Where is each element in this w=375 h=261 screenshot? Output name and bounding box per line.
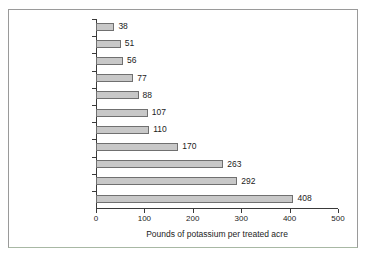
bar: [96, 160, 223, 168]
bar: [96, 91, 139, 99]
bar-value-label: 77: [137, 71, 146, 86]
y-axis-tick: [92, 105, 96, 106]
x-axis-tick-label: 0: [76, 214, 116, 224]
x-axis-tick: [241, 209, 242, 213]
bar: [96, 23, 114, 31]
x-axis-line: [96, 208, 338, 209]
y-axis-tick: [92, 19, 96, 20]
y-axis-tick: [92, 71, 96, 72]
chart-figure: Wheat38Cotton51Corn56Lettuce (head)77Soy…: [0, 0, 375, 261]
x-axis-tick-label: 500: [318, 214, 358, 224]
y-axis-tick: [92, 157, 96, 158]
y-axis-tick: [92, 53, 96, 54]
x-axis-title: Pounds of potassium per treated acre: [96, 229, 338, 239]
bar-value-label: 88: [143, 88, 152, 103]
y-axis-tick: [92, 191, 96, 192]
y-axis-tick: [92, 122, 96, 123]
x-axis-tick: [96, 209, 97, 213]
x-axis-tick: [290, 209, 291, 213]
bar: [96, 109, 148, 117]
bar: [96, 40, 121, 48]
x-axis-tick-label: 400: [270, 214, 310, 224]
bar-value-label: 110: [153, 122, 167, 137]
bar-value-label: 263: [227, 157, 241, 172]
y-axis-tick: [92, 88, 96, 89]
bar-value-label: 38: [118, 19, 127, 34]
x-axis-tick: [338, 209, 339, 213]
bar-value-label: 292: [241, 174, 255, 189]
bar: [96, 177, 237, 185]
bar: [96, 74, 133, 82]
x-axis-tick: [193, 209, 194, 213]
y-axis-tick: [92, 36, 96, 37]
bar: [96, 57, 123, 65]
x-axis-tick-label: 200: [173, 214, 213, 224]
bar: [96, 143, 178, 151]
bar-value-label: 107: [152, 105, 166, 120]
bar-value-label: 51: [125, 36, 134, 51]
bar-value-label: 56: [127, 53, 136, 68]
bar: [96, 126, 149, 134]
bar-value-label: 408: [297, 191, 311, 206]
x-axis-tick-label: 300: [221, 214, 261, 224]
bar: [96, 195, 293, 203]
bar-value-label: 170: [182, 139, 196, 154]
y-axis-tick: [92, 139, 96, 140]
x-axis-tick: [144, 209, 145, 213]
y-axis-tick: [92, 174, 96, 175]
plot-area: Wheat38Cotton51Corn56Lettuce (head)77Soy…: [0, 0, 375, 261]
x-axis-tick-label: 100: [124, 214, 164, 224]
